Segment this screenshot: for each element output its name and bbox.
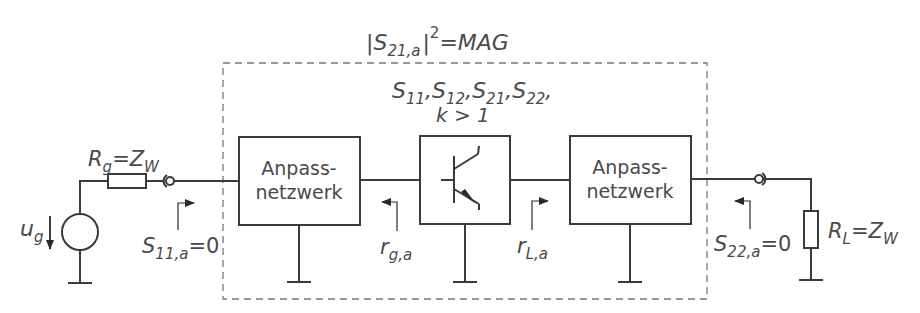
s22-arrow-icon (735, 201, 750, 229)
stability-condition-label: k > 1 (436, 103, 490, 127)
rg-label: rg,a (380, 235, 412, 264)
output-matching-label-line2: netzwerk (586, 180, 673, 202)
rl-label: rL,a (517, 234, 548, 263)
input-matching-label-line2: netzwerk (255, 181, 342, 203)
voltage-source (62, 214, 98, 250)
source-voltage-label: ug (20, 216, 43, 246)
source-resistor-label: Rg=ZW (88, 147, 160, 176)
input-matching-label-line1: Anpass- (261, 157, 336, 179)
transistor-block (420, 136, 510, 224)
s11-arrow-icon (178, 203, 194, 230)
amplifier-matching-diagram: |S21,a|2=MAG S11,S12,S21,S22, k > 1 Rg=Z… (0, 0, 920, 313)
wire (763, 179, 811, 211)
source-resistor (108, 174, 146, 188)
load-resistor (804, 211, 818, 248)
rg-arrow-icon (382, 202, 397, 231)
load-resistor-label: RL=ZW (828, 219, 899, 248)
rl-arrow-icon (532, 201, 548, 230)
port-connector-input (166, 177, 174, 185)
port-connector-output (755, 175, 763, 183)
s22-label: S22,a=0 (714, 232, 791, 261)
title-formula: |S21,a|2=MAG (366, 24, 509, 60)
s11-label: S11,a=0 (142, 234, 219, 263)
output-matching-label-line1: Anpass- (592, 156, 667, 178)
